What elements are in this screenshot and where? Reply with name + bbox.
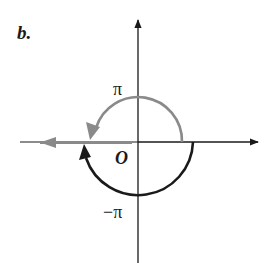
neg-pi-label: −π (103, 203, 122, 221)
left-arrow-icon (40, 137, 56, 148)
origin-label: O (115, 149, 128, 167)
positive-arc (86, 97, 182, 142)
negative-real-ray (40, 137, 132, 148)
pi-label: π (113, 80, 122, 98)
positive-arc-path (96, 97, 182, 142)
diagram-canvas (0, 0, 277, 263)
negative-arc (79, 142, 193, 195)
negative-arc-path (86, 142, 193, 195)
panel-label: b. (17, 23, 31, 42)
arc-arrowhead-icon (79, 144, 91, 160)
argument-diagram: b. π O −π (0, 0, 277, 263)
